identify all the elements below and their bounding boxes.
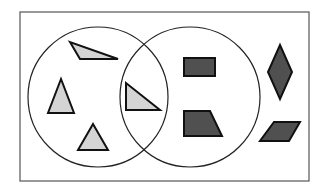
- venn-diagram: [0, 0, 326, 188]
- rectangle-shape: [184, 58, 215, 76]
